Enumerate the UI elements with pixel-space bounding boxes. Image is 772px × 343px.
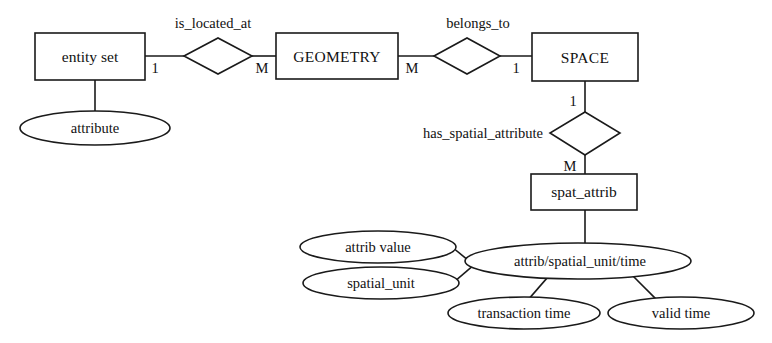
attribute-valid-time[interactable]: valid time xyxy=(608,297,754,329)
belongs-to-diamond[interactable] xyxy=(434,38,500,74)
er-diagram-canvas: entity set GEOMETRY SPACE spat_attrib is… xyxy=(0,0,772,343)
attribute-attrib-spatial-unit-time[interactable]: attrib/spatial_unit/time xyxy=(465,243,691,279)
relationship-is-located-at[interactable]: is_located_at xyxy=(175,15,252,74)
valid-time-label: valid time xyxy=(652,305,710,321)
is-located-at-diamond[interactable] xyxy=(184,38,252,74)
space-label: SPACE xyxy=(561,49,609,66)
spat-attrib-label: spat_attrib xyxy=(551,183,617,200)
has-spatial-attribute-label: has_spatial_attribute xyxy=(423,125,543,141)
entity-set-label: entity set xyxy=(62,48,119,65)
geometry-label: GEOMETRY xyxy=(293,48,381,65)
attrib-spatial-unit-time-label: attrib/spatial_unit/time xyxy=(514,253,646,269)
attribute-attribute[interactable]: attribute xyxy=(20,111,170,145)
is-located-at-label: is_located_at xyxy=(175,15,252,31)
entity-spat-attrib[interactable]: spat_attrib xyxy=(531,174,637,210)
relationship-has-spatial-attribute[interactable]: has_spatial_attribute xyxy=(423,112,620,155)
attrib-value-label: attrib value xyxy=(345,239,411,255)
attribute-spatial-unit[interactable]: spatial_unit xyxy=(303,267,459,299)
belongs-to-label: belongs_to xyxy=(446,15,510,31)
entity-geometry[interactable]: GEOMETRY xyxy=(276,33,398,79)
attribute-label: attribute xyxy=(71,120,119,136)
transaction-time-label: transaction time xyxy=(477,305,570,321)
cardinality-space-has-spatial-attribute: 1 xyxy=(569,93,576,109)
cardinality-geometry-belongs-to: M xyxy=(406,60,419,76)
has-spatial-attribute-diamond[interactable] xyxy=(550,112,620,155)
entity-entity-set[interactable]: entity set xyxy=(35,33,145,80)
spatial-unit-label: spatial_unit xyxy=(347,275,415,291)
cardinality-has-spatial-attribute-spat-attrib: M xyxy=(564,158,577,174)
cardinality-is-located-at-geometry: M xyxy=(256,60,269,76)
attribute-attrib-value[interactable]: attrib value xyxy=(300,231,456,263)
attribute-transaction-time[interactable]: transaction time xyxy=(448,297,600,329)
cardinality-belongs-to-space: 1 xyxy=(512,60,519,76)
relationship-belongs-to[interactable]: belongs_to xyxy=(434,15,510,74)
entity-space[interactable]: SPACE xyxy=(532,33,638,81)
er-diagram-svg: entity set GEOMETRY SPACE spat_attrib is… xyxy=(0,0,772,343)
cardinality-entity-set-is-located-at: 1 xyxy=(151,60,158,76)
